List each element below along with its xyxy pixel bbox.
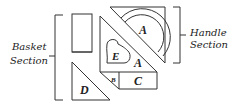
basket-panel: E A <box>100 16 157 72</box>
basket-label-line2: Section <box>10 55 48 66</box>
piece-d-label: D <box>79 83 89 97</box>
handle-section-bracket <box>173 7 186 63</box>
quilt-block-diagram: Basket Section D E A B C A Handle Sectio… <box>0 0 233 109</box>
piece-b-label: B <box>110 76 116 84</box>
basket-label-line1: Basket <box>11 41 47 52</box>
piece-e-label: E <box>111 50 119 62</box>
piece-b-c-strip: B C <box>100 72 157 89</box>
handle-label-line1: Handle <box>189 27 227 38</box>
piece-c-label: C <box>134 74 143 88</box>
piece-a-handle-label: A <box>138 23 147 37</box>
piece-a-panel-label: A <box>133 56 142 70</box>
handle-label-line2: Section <box>190 39 228 50</box>
basket-side-strip <box>72 14 92 52</box>
basket-section-bracket <box>49 15 63 100</box>
piece-d-triangle: D <box>72 62 110 100</box>
